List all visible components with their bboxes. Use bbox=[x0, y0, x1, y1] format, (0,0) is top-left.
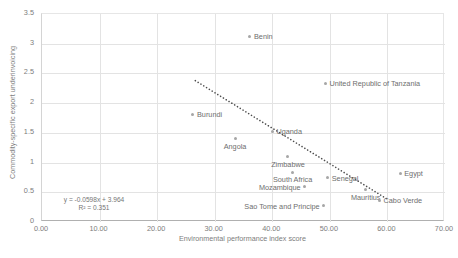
x-tick-label: 50.00 bbox=[304, 224, 354, 233]
data-point-label: Burundi bbox=[197, 110, 222, 119]
x-tick-label: 70.00 bbox=[419, 224, 458, 233]
y-tick-label: 1 bbox=[0, 158, 34, 166]
regression-equation: y = -0.0598x + 3.964 bbox=[46, 196, 142, 204]
data-point-label: Angola bbox=[224, 142, 247, 151]
y-tick-label: 3 bbox=[0, 39, 34, 47]
x-tick-label: 20.00 bbox=[131, 224, 181, 233]
gridline bbox=[42, 163, 445, 164]
data-point[interactable] bbox=[271, 130, 274, 133]
gridline bbox=[330, 14, 331, 222]
data-point[interactable] bbox=[399, 172, 402, 175]
y-axis-ticks: 00.511.522.533.5 bbox=[0, 13, 37, 221]
gridline bbox=[42, 73, 445, 74]
gridline bbox=[157, 14, 158, 222]
data-point-label: Cabo Verde bbox=[384, 196, 423, 205]
data-point-label: Sao Tome and Principe bbox=[244, 201, 319, 210]
gridline bbox=[42, 103, 445, 104]
data-point-label: Senegal bbox=[332, 173, 359, 182]
data-point-label: Uganda bbox=[276, 127, 302, 136]
data-point-label: Mauritius bbox=[351, 193, 381, 202]
y-axis-title: Commodity-specific export underinvoicing bbox=[8, 8, 17, 218]
data-point-label: Egypt bbox=[404, 169, 423, 178]
y-tick-label: 1.5 bbox=[0, 128, 34, 136]
data-point[interactable] bbox=[324, 82, 327, 85]
data-point-label: Benin bbox=[254, 32, 273, 41]
x-axis-title: Environmental performance index score bbox=[41, 234, 444, 243]
gridline bbox=[42, 133, 445, 134]
x-tick-label: 10.00 bbox=[74, 224, 124, 233]
data-point-label: Zimbabwe bbox=[271, 160, 305, 169]
y-tick-label: 2 bbox=[0, 98, 34, 106]
x-tick-label: 30.00 bbox=[189, 224, 239, 233]
x-tick-label: 60.00 bbox=[361, 224, 411, 233]
plot-area bbox=[41, 13, 444, 221]
regression-equation-annotation: y = -0.0598x + 3.964 R² = 0.351 bbox=[46, 196, 142, 213]
data-point-label: Mozambique bbox=[259, 182, 301, 191]
gridline bbox=[387, 14, 388, 222]
data-point-label: United Republic of Tanzania bbox=[329, 79, 420, 88]
gridline bbox=[100, 14, 101, 222]
x-tick-label: 40.00 bbox=[246, 224, 296, 233]
data-point[interactable] bbox=[291, 171, 294, 174]
y-tick-label: 3.5 bbox=[0, 9, 34, 17]
scatter-chart: 00.511.522.533.5 0.0010.0020.0030.0040.0… bbox=[0, 0, 458, 258]
x-tick-label: 0.00 bbox=[16, 224, 66, 233]
gridline bbox=[42, 44, 445, 45]
r-squared-value: R² = 0.351 bbox=[46, 204, 142, 212]
y-tick-label: 2.5 bbox=[0, 68, 34, 76]
y-tick-label: 0.5 bbox=[0, 187, 34, 195]
gridline bbox=[42, 192, 445, 193]
data-point[interactable] bbox=[378, 199, 381, 202]
